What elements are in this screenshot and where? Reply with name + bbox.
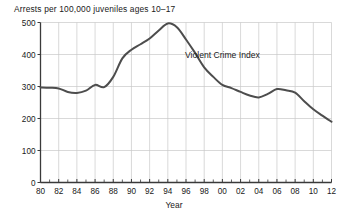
x-tick-label: 90: [127, 187, 137, 196]
y-tick-label: 300: [22, 83, 36, 92]
x-tick-label: 80: [36, 187, 46, 196]
y-tick-label: 400: [22, 51, 36, 60]
x-tick-label: 94: [163, 187, 173, 196]
series-annotation-label: Violent Crime Index: [185, 50, 261, 60]
x-tick-label: 82: [54, 187, 64, 196]
x-tick-label: 84: [72, 187, 82, 196]
x-tick-label: 98: [200, 187, 210, 196]
x-tick-label: 12: [327, 187, 337, 196]
grid-lines: [41, 23, 332, 183]
x-tick-label: 04: [254, 187, 264, 196]
y-tick-label: 100: [22, 147, 36, 156]
x-tick-label: 92: [145, 187, 155, 196]
x-tick-label: 10: [309, 187, 319, 196]
series-annotation-layer: Violent Crime Index: [185, 50, 261, 60]
x-tick-label: 02: [236, 187, 246, 196]
y-tick-label: 200: [22, 115, 36, 124]
x-tick-label: 00: [218, 187, 228, 196]
y-axis-tick-labels: 0100200300400500: [22, 19, 36, 188]
x-axis-tick-labels: 8082848688909294969800020406081012: [36, 187, 337, 196]
x-tick-label: 86: [91, 187, 101, 196]
x-tick-label: 08: [291, 187, 301, 196]
x-tick-label: 96: [181, 187, 191, 196]
chart-container: Arrests per 100,000 juveniles ages 10–17…: [0, 0, 348, 219]
x-axis-title: Year: [0, 200, 348, 210]
line-chart-plot: 0100200300400500 80828486889092949698000…: [0, 0, 348, 219]
x-tick-label: 88: [109, 187, 119, 196]
y-tick-label: 500: [22, 19, 36, 28]
tick-marks: [38, 23, 332, 183]
x-tick-label: 06: [272, 187, 282, 196]
